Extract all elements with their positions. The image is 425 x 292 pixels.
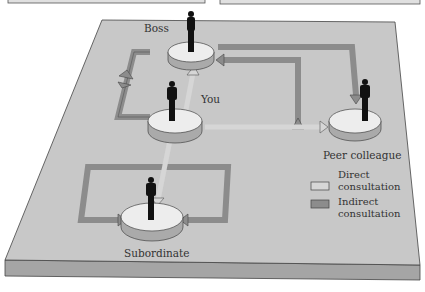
- legend-direct-line1: Direct: [338, 169, 370, 180]
- top-panels: [8, 0, 420, 4]
- boss-label: Boss: [144, 22, 169, 34]
- person-icon: [187, 11, 195, 52]
- legend-indirect-line1: Indirect: [338, 196, 378, 207]
- peer-colleague-label: Peer colleague: [323, 149, 401, 161]
- consultation-diagram: Boss You Peer colleague Subordinate: [0, 0, 425, 292]
- legend-direct-line2: consultation: [338, 181, 401, 192]
- legend-indirect-line2: consultation: [338, 208, 401, 219]
- subordinate-label: Subordinate: [124, 247, 190, 259]
- you-label: You: [200, 93, 220, 105]
- legend-direct-swatch: [311, 182, 329, 190]
- legend-indirect-swatch: [311, 200, 329, 208]
